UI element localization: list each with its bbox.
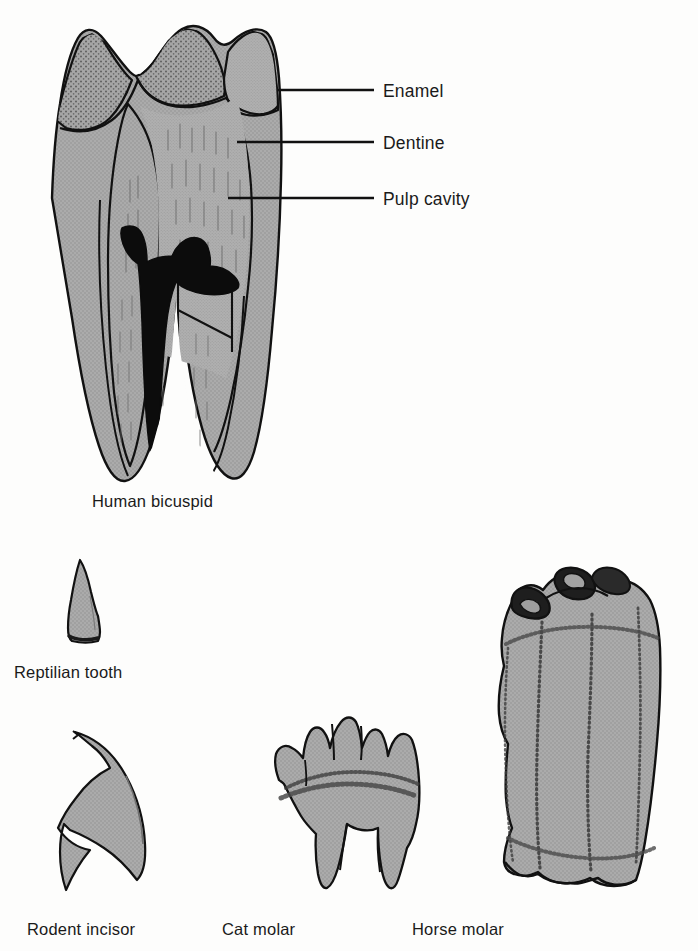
caption-cat-molar: Cat molar xyxy=(222,920,295,939)
cat-molar-illustration xyxy=(275,718,419,889)
caption-rodent-incisor: Rodent incisor xyxy=(27,920,135,939)
cat-molar-fissure-second xyxy=(361,726,362,760)
reptilian-tooth-illustration xyxy=(68,560,100,643)
reptilian-tooth-shape xyxy=(68,560,100,643)
horse-molar-illustration xyxy=(499,567,661,886)
caption-human-bicuspid: Human bicuspid xyxy=(92,492,213,511)
caption-horse-molar: Horse molar xyxy=(412,920,504,939)
rodent-incisor-shape xyxy=(58,732,145,890)
dentine-label: Dentine xyxy=(383,133,445,154)
figure-illustration xyxy=(0,0,698,951)
pulp-cavity-label: Pulp cavity xyxy=(383,189,470,210)
enamel-label: Enamel xyxy=(383,81,444,102)
rodent-incisor-illustration xyxy=(58,731,145,890)
human-bicuspid-illustration xyxy=(52,26,281,481)
tooth-anatomy-figure: Enamel Dentine Pulp cavity Human bicuspi… xyxy=(0,0,698,951)
caption-reptilian-tooth: Reptilian tooth xyxy=(14,663,123,682)
cat-molar-shape xyxy=(275,718,419,889)
